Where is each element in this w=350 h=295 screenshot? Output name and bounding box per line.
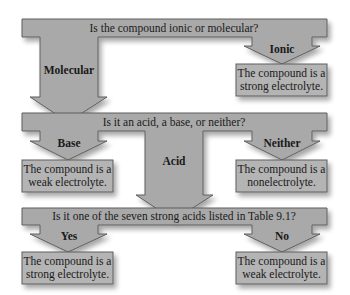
- level2-question-text: Is it an acid, a base, or neither?: [103, 116, 246, 129]
- yes-result-line2: strong electrolyte.: [26, 268, 109, 281]
- level3-question-text: Is it one of the seven strong acids list…: [52, 210, 296, 223]
- base-branch-label: Base: [58, 137, 81, 149]
- ionic-result-line1: The compound is a: [238, 67, 326, 80]
- level1-question-text: Is the compound ionic or molecular?: [90, 22, 259, 35]
- yes-branch-label: Yes: [61, 230, 78, 242]
- electrolyte-flowchart: Is the compound ionic or molecular? Mole…: [0, 0, 350, 295]
- yes-result-line1: The compound is a: [24, 255, 112, 268]
- no-result-line1: The compound is a: [238, 255, 326, 268]
- no-result-line2: weak electrolyte.: [242, 268, 321, 281]
- base-result-line2: weak electrolyte.: [28, 176, 107, 189]
- base-result-line1: The compound is a: [24, 163, 112, 176]
- neither-result-line1: The compound is a: [238, 163, 326, 176]
- ionic-branch-label: Ionic: [270, 43, 295, 55]
- neither-branch-label: Neither: [263, 137, 300, 149]
- ionic-result-line2: strong electrolyte.: [240, 80, 323, 93]
- molecular-branch-label: Molecular: [44, 64, 94, 76]
- acid-branch-label: Acid: [163, 155, 187, 167]
- no-branch-label: No: [275, 230, 289, 242]
- neither-result-line2: nonelectrolyte.: [247, 176, 316, 189]
